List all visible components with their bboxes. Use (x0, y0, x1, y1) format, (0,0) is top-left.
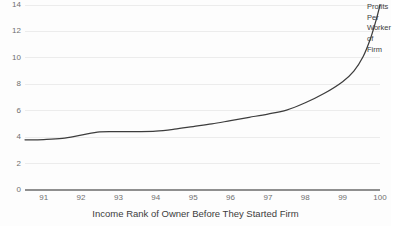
series-label-line: Worker (367, 23, 393, 34)
x-axis-tick-label: 97 (253, 194, 283, 202)
y-axis-tick-label: 8 (1, 80, 21, 88)
y-axis-tick-label: 6 (1, 107, 21, 115)
y-axis-tick-labels: 02468101214 (0, 5, 21, 190)
x-axis-title: Income Rank of Owner Before They Started… (0, 209, 391, 219)
x-axis-tick-label: 99 (328, 194, 358, 202)
series-label-line: of (367, 34, 393, 45)
series-line (25, 5, 380, 140)
x-axis-tick-label: 93 (103, 194, 133, 202)
y-axis-tick-label: 0 (1, 186, 21, 194)
x-axis-tick-label: 94 (141, 194, 171, 202)
series-label-line: Per (367, 13, 393, 24)
series-label-line: Firm (367, 45, 393, 56)
y-axis-tick-label: 2 (1, 160, 21, 168)
x-axis-tick-labels: 919293949596979899100 (25, 194, 380, 206)
x-axis-tick-label: 91 (29, 194, 59, 202)
x-axis-tick-label: 95 (178, 194, 208, 202)
x-axis-tick-label: 98 (290, 194, 320, 202)
series-label-line: Profits (367, 2, 393, 13)
y-axis-tick-label: 14 (1, 1, 21, 9)
x-axis-tick-label: 92 (66, 194, 96, 202)
x-axis-tick-label: 96 (216, 194, 246, 202)
y-axis-tick-label: 12 (1, 27, 21, 35)
series-profits-per-worker-of-firm (25, 5, 380, 190)
y-axis-tick-label: 10 (1, 54, 21, 62)
plot-area (25, 5, 380, 190)
y-axis-tick-label: 4 (1, 133, 21, 141)
x-axis-tick-label: 100 (365, 194, 395, 202)
series-label-profits-per-worker-of-firm: ProfitsPerWorkerofFirm (367, 2, 393, 55)
